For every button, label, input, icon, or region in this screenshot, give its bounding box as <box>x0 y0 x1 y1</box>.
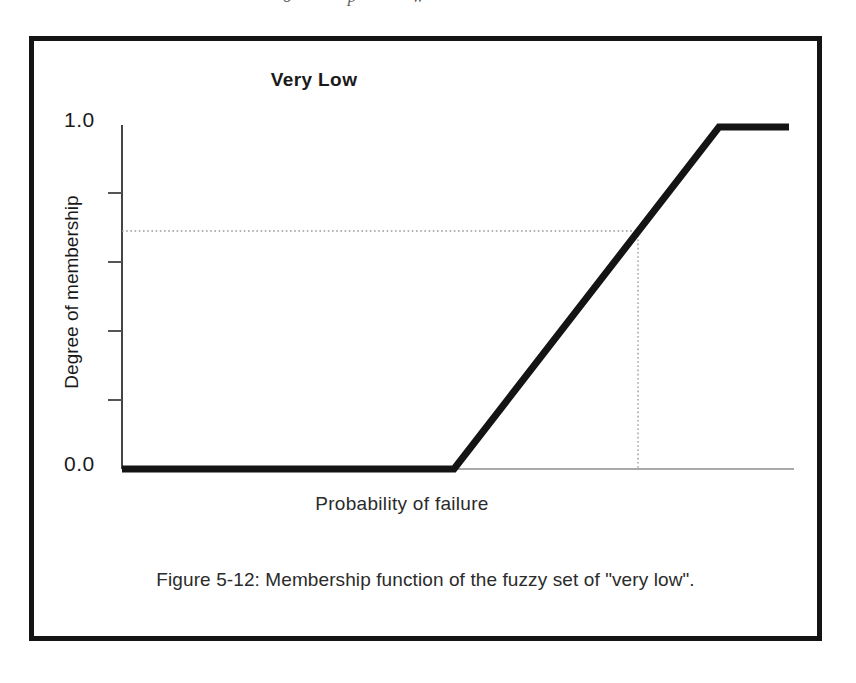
plot-area: 1.0 0.0 Degree of membership Probability… <box>34 41 817 636</box>
page-header-remnant: o p w <box>0 0 856 14</box>
membership-function-plot <box>34 41 817 636</box>
figure-frame: Very Low 1.0 0.0 Degree of membership <box>29 36 822 641</box>
figure-caption: Figure 5-12: Membership function of the … <box>34 569 817 591</box>
membership-function-curve <box>122 127 789 469</box>
y-axis-ticks <box>108 193 122 400</box>
page-header-remnant-text: o p w <box>283 0 450 7</box>
y-axis-tick-label-bottom: 0.0 <box>64 452 95 476</box>
y-axis-title: Degree of membership <box>61 142 83 442</box>
y-axis-tick-label-top: 1.0 <box>64 108 95 132</box>
x-axis-title: Probability of failure <box>122 493 682 515</box>
